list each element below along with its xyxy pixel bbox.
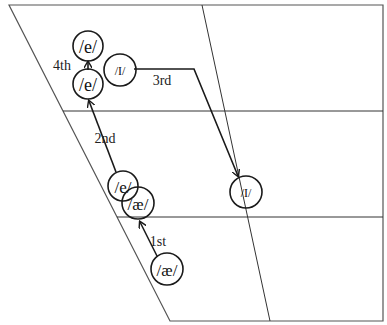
vowel-ae-mid: /æ/	[122, 187, 154, 219]
vowel-label: /e/	[79, 37, 97, 57]
vowel-ae-start: /æ/	[151, 253, 183, 285]
step-label-1st: 1st	[150, 234, 166, 249]
arrow-step-3	[134, 69, 238, 176]
vowel-trapezoid-diagram: /æ/ /e/ /æ/ /e/ /e/ /I/ /I/ 1st 2nd 3rd …	[0, 0, 387, 325]
grid-line-central	[202, 5, 270, 321]
step-label-3rd: 3rd	[153, 73, 172, 88]
vowel-label: /e/	[79, 75, 97, 95]
vowel-label: /I/	[115, 64, 126, 78]
step-label-2nd: 2nd	[95, 131, 116, 146]
vowel-e-upper: /e/	[73, 31, 103, 61]
vowel-I-high: /I/	[104, 54, 136, 86]
trapezoid-outline	[9, 5, 383, 321]
vowel-label: /æ/	[157, 261, 178, 280]
vowel-I-central: /I/	[230, 176, 262, 208]
vowel-label: /æ/	[128, 195, 149, 214]
vowel-e-lower: /e/	[73, 69, 103, 99]
vowel-label: /I/	[241, 186, 252, 200]
step-label-4th: 4th	[53, 58, 71, 73]
